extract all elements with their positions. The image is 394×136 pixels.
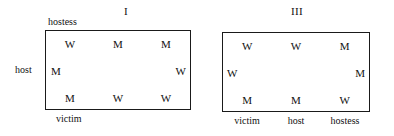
panel-three-cell-r1c2: M [355, 68, 365, 79]
panel-one-cell-r2c2: W [161, 93, 171, 104]
panel-three-bottom-label-victim: victim [234, 116, 260, 126]
panel-three-cell-r2c1: M [291, 95, 301, 106]
panel-one-top-label: hostess [48, 17, 77, 27]
panel-three-title: III [286, 6, 308, 17]
panel-one-cell-r1c0: M [51, 66, 61, 77]
panel-three-bottom-label-hostess: hostess [331, 116, 360, 126]
panel-three-cell-r2c0: M [242, 95, 252, 106]
panel-one-matrix-box: W M M M W M W W [45, 30, 191, 110]
panel-three-bottom-label-host: host [288, 116, 305, 126]
panel-three-cell-r2c2: W [339, 95, 349, 106]
panel-one-cell-r1c2: W [176, 66, 186, 77]
figure-canvas: I hostess host W M M M W M W W victim II… [0, 0, 394, 136]
panel-one-cell-r0c1: M [113, 39, 123, 50]
panel-one-cell-r0c0: W [65, 39, 75, 50]
panel-three-cell-r0c1: W [291, 41, 301, 52]
panel-three-cell-r0c0: W [242, 41, 252, 52]
panel-one-cell-r2c0: M [65, 93, 75, 104]
panel-three-cell-r1c0: W [227, 68, 237, 79]
panel-one-cell-r0c2: M [161, 39, 171, 50]
panel-three-matrix-box: W W M W M M M W [222, 32, 370, 112]
panel-one-title: I [118, 6, 134, 17]
panel-one-bottom-label-victim: victim [56, 114, 82, 124]
panel-one-left-label: host [15, 65, 32, 75]
panel-one-cell-r2c1: W [113, 93, 123, 104]
panel-three-cell-r0c2: M [340, 41, 350, 52]
